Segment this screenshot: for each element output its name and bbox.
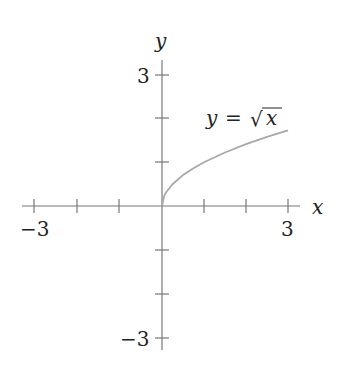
svg-text:=: =	[225, 106, 242, 130]
svg-text:y: y	[205, 106, 218, 130]
sqrt-curve	[162, 130, 288, 206]
svg-text:x: x	[266, 106, 277, 130]
curve-annotation: y = √ x	[205, 106, 282, 131]
x-axis-label: x	[312, 195, 323, 219]
y-max-label: 3	[137, 64, 150, 88]
svg-text:√: √	[250, 107, 263, 131]
x-max-label: 3	[281, 217, 294, 241]
y-min-label: −3	[120, 327, 149, 351]
x-min-label: −3	[20, 217, 49, 241]
chart: y x 3 −3 −3 3 y = √ x	[0, 0, 344, 372]
y-axis-label: y	[154, 29, 167, 53]
